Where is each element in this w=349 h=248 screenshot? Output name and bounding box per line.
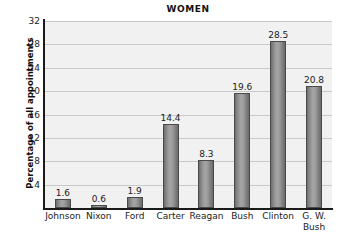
bar[interactable] [163,124,179,208]
x-tick-label: G. W.Bush [288,211,340,233]
bar[interactable] [306,86,322,208]
chart-title: WOMEN [44,4,332,14]
y-axis-line [43,19,45,210]
bar[interactable] [55,199,71,208]
bar-value-label: 28.5 [258,30,298,40]
y-axis-tick-labels: 48121620242832 [0,0,40,248]
y-tick-label: 8 [6,156,40,166]
x-tick-label-line: G. W. [288,211,340,222]
bar[interactable] [127,197,143,208]
bar-slot: 20.8 [296,21,332,208]
bar-value-label: 1.6 [43,188,83,198]
bar-slot: 14.4 [153,21,189,208]
bar[interactable] [198,160,214,209]
bar-value-label: 19.6 [222,82,262,92]
bar-slot: 19.6 [224,21,260,208]
bar[interactable] [270,41,286,208]
chart-figure: WOMEN Percentage of all appointments 481… [0,0,349,248]
plot-area: 1.60.61.914.48.319.628.520.8 [45,21,332,208]
bar-value-label: 20.8 [294,75,334,85]
x-axis-line [43,208,333,210]
y-tick-label: 20 [6,86,40,96]
y-tick-label: 28 [6,39,40,49]
bar[interactable] [234,93,250,208]
x-axis-tick-labels: JohnsonNixonFordCarterReaganBushClintonG… [45,211,332,248]
y-tick-label: 16 [6,110,40,120]
y-tick-label: 12 [6,133,40,143]
bar-slot: 1.9 [117,21,153,208]
x-tick-label-line: Bush [288,222,340,233]
y-tick-label: 4 [6,180,40,190]
bar-value-label: 14.4 [151,113,191,123]
bar-slot: 0.6 [81,21,117,208]
y-tick-label: 24 [6,63,40,73]
bar-value-label: 1.9 [115,186,155,196]
bar-value-label: 0.6 [79,194,119,204]
y-tick-label: 32 [6,16,40,26]
bar-slot: 8.3 [189,21,225,208]
bar-value-label: 8.3 [186,149,226,159]
bar-slot: 1.6 [45,21,81,208]
bar-slot: 28.5 [260,21,296,208]
